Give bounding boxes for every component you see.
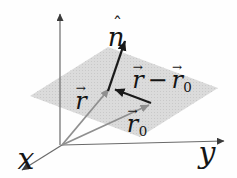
vector-arrow-accent-icon: → [172, 61, 182, 73]
vector-arrow-accent-icon: → [76, 82, 86, 94]
r0-vector-symbol: r→ [127, 112, 138, 136]
r-vector-symbol: r→ [75, 89, 86, 113]
vector-arrow-accent-icon: → [127, 105, 137, 117]
label-normal-vector: nˆ [108, 24, 125, 50]
y-axis-label: y [199, 138, 216, 168]
minus-operator: − [147, 66, 167, 94]
label-vector-r0: r→0 [127, 112, 147, 136]
vector-arrow-accent-icon: → [133, 61, 143, 73]
diff-r-symbol: r→ [132, 68, 143, 92]
label-vector-r: r→ [75, 89, 86, 113]
hat-accent-icon: ˆ [113, 16, 122, 35]
x-axis-label: x [18, 144, 35, 174]
diff-r0-subscript: 0 [183, 80, 192, 95]
diff-r0-symbol: r→ [171, 68, 182, 92]
r0-subscript: 0 [139, 124, 148, 139]
label-vector-r-minus-r0: r→−r→0 [132, 68, 192, 92]
plane-normal-vector-diagram: nˆ r→ r→0 r→−r→0 x y [0, 0, 237, 178]
n-hat-symbol: nˆ [108, 24, 125, 50]
